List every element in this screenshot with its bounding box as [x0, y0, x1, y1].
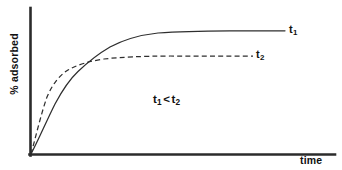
series-label-t1-sub: 1 [293, 28, 297, 37]
series-curve-t1 [31, 31, 285, 154]
relation-lhs-sub: 1 [157, 98, 162, 107]
y-axis-label: % adsorbed [9, 26, 23, 102]
relation-operator: < [162, 93, 172, 105]
relation-annotation: t1<t2 [153, 94, 180, 108]
series-label-t2: t2 [256, 49, 264, 62]
x-axis-label: time [300, 155, 322, 166]
adsorption-figure: % adsorbed time t1 t2 t1<t2 [0, 0, 342, 170]
series-curve-t2 [31, 56, 253, 154]
relation-rhs-sub: 2 [176, 98, 181, 107]
series-label-t2-sub: 2 [260, 53, 264, 62]
series-label-t1: t1 [289, 24, 297, 37]
